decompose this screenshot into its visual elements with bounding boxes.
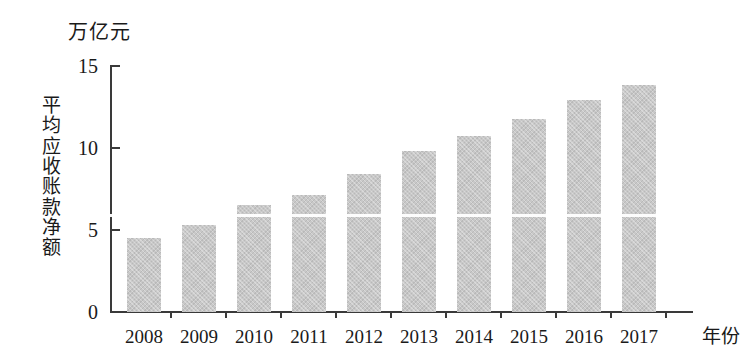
- x-tick-mark-2017: [665, 312, 667, 318]
- x-tick-mark-2012: [390, 312, 392, 318]
- bar-2016: [567, 100, 601, 312]
- bar-2011: [292, 195, 326, 312]
- x-tick-mark-2014: [500, 312, 502, 318]
- x-tick-label-2010: 2010: [226, 327, 282, 346]
- x-tick-mark-2011: [335, 312, 337, 318]
- x-tick-label-2012: 2012: [336, 327, 392, 346]
- x-tick-label-2014: 2014: [446, 327, 502, 346]
- x-tick-label-2017: 2017: [611, 327, 667, 346]
- y-tick-mark-10: [112, 147, 120, 149]
- y-axis-unit-label: 万亿元: [68, 22, 131, 42]
- x-tick-label-2015: 2015: [501, 327, 557, 346]
- bar-2014: [457, 136, 491, 312]
- y-tick-label-0: 0: [58, 302, 98, 322]
- bar-2013: [402, 151, 436, 312]
- bar-2008: [127, 238, 161, 312]
- y-tick-label-15: 15: [58, 56, 98, 76]
- y-tick-mark-15: [112, 65, 120, 67]
- x-tick-label-2013: 2013: [391, 327, 447, 346]
- x-tick-label-2009: 2009: [171, 327, 227, 346]
- bar-chart-figure: 万亿元 平均应收账款净额 15 10 5 0 20082009201020112…: [0, 0, 751, 362]
- y-tick-label-5: 5: [58, 220, 98, 240]
- x-tick-mark-2009: [225, 312, 227, 318]
- y-tick-label-group: 15 10 5 0: [58, 60, 98, 312]
- y-tick-mark-5: [112, 229, 120, 231]
- x-tick-label-2008: 2008: [116, 327, 172, 346]
- x-tick-mark-2016: [610, 312, 612, 318]
- bar-2010: [237, 205, 271, 312]
- x-tick-label-2011: 2011: [281, 327, 337, 346]
- x-tick-label-2016: 2016: [556, 327, 612, 346]
- x-tick-mark-2008: [170, 312, 172, 318]
- bar-2017: [622, 85, 656, 312]
- bar-2015: [512, 119, 546, 312]
- y-tick-label-10: 10: [58, 138, 98, 158]
- x-axis-title: 年份: [702, 327, 740, 346]
- x-tick-mark-2010: [280, 312, 282, 318]
- plot-area: 15 10 5 0 200820092010201120122013201420…: [110, 60, 710, 312]
- y-axis-line: [110, 65, 112, 313]
- x-tick-mark-2013: [445, 312, 447, 318]
- bar-2012: [347, 174, 381, 312]
- bar-2009: [182, 225, 216, 312]
- x-tick-mark-2015: [555, 312, 557, 318]
